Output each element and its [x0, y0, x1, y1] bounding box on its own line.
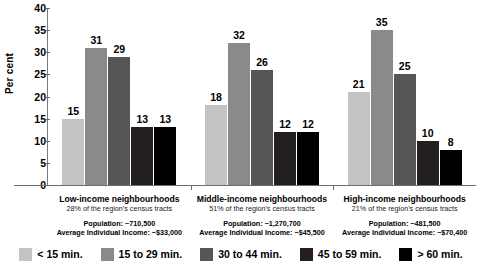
y-axis-tick-label: 30 [20, 47, 46, 58]
bar [371, 30, 393, 185]
bar-value-label: 29 [99, 44, 139, 55]
group-caption: Low-income neighbourhoods28% of the regi… [48, 194, 191, 238]
legend-label: 30 to 44 min. [218, 248, 282, 260]
bar [131, 127, 153, 185]
group-divider-tick [191, 186, 192, 190]
legend-item[interactable]: 15 to 29 min. [101, 248, 183, 261]
legend-item[interactable]: 45 to 59 min. [300, 248, 382, 261]
group-subtitle: 21% of the region's census tracts [333, 205, 476, 213]
y-axis-tick-label: 35 [20, 25, 46, 36]
y-axis-tick-mark [46, 52, 50, 53]
legend-label: 15 to 29 min. [119, 248, 183, 260]
y-axis-tick-label: 25 [20, 69, 46, 80]
legend-label: 45 to 59 min. [318, 248, 382, 260]
bar-value-label: 35 [362, 17, 402, 28]
bar [417, 141, 439, 185]
bar [85, 48, 107, 185]
group-population: Population: ~710,500 [48, 220, 191, 228]
bar [297, 132, 319, 185]
legend-item[interactable]: > 60 min. [399, 248, 462, 261]
bar-value-label: 12 [288, 119, 328, 130]
bar [154, 127, 176, 185]
bar-value-label: 13 [145, 114, 185, 125]
bar [205, 105, 227, 185]
legend-color-swatch [300, 248, 313, 261]
y-axis-tick-label: 15 [20, 114, 46, 125]
y-axis-tick-mark [46, 74, 50, 75]
y-axis-tick-label: 10 [20, 136, 46, 147]
chart-legend: < 15 min.15 to 29 min.30 to 44 min.45 to… [0, 243, 482, 265]
group-title: Middle-income neighbourhoods [191, 194, 334, 204]
bar-value-label: 8 [431, 137, 471, 148]
group-title: High-income neighbourhoods [333, 194, 476, 204]
plot-area: 15312913131832261212213525108 [48, 8, 476, 185]
bar-group: 1832261212 [191, 8, 334, 185]
bar [440, 150, 462, 185]
bar-value-label: 25 [385, 61, 425, 72]
y-axis-tick-mark [46, 119, 50, 120]
y-axis-tick-label: 5 [20, 158, 46, 169]
group-subtitle: 28% of the region's census tracts [48, 205, 191, 213]
group-population: Population: ~1,270,700 [191, 220, 334, 228]
legend-color-swatch [200, 248, 213, 261]
bar-group: 1531291313 [48, 8, 191, 185]
bar-value-label: 26 [242, 57, 282, 68]
y-axis-tick-mark [46, 97, 50, 98]
legend-color-swatch [101, 248, 114, 261]
bar [348, 92, 370, 185]
bar-group: 213525108 [333, 8, 476, 185]
legend-color-swatch [399, 248, 412, 261]
group-caption: Middle-income neighbourhoods51% of the r… [191, 194, 334, 238]
y-axis-title: Per cent [4, 39, 15, 109]
group-title: Low-income neighbourhoods [48, 194, 191, 204]
bar [62, 119, 84, 185]
y-axis-tick-mark [46, 30, 50, 31]
y-axis-tick-label: 20 [20, 92, 46, 103]
legend-color-swatch [19, 248, 32, 261]
commute-time-by-neighbourhood-income-bar-chart: Per cent 4035302520151050 15312913131832… [0, 0, 482, 268]
group-population: Population: ~481,500 [333, 220, 476, 228]
legend-item[interactable]: 30 to 44 min. [200, 248, 282, 261]
y-axis-tick-mark [46, 8, 50, 9]
group-subtitle: 51% of the region's census tracts [191, 205, 334, 213]
y-axis-tick-mark [46, 141, 50, 142]
group-average-income: Average Individual Income: ~$45,500 [191, 229, 334, 237]
y-axis-tick-mark [46, 185, 50, 186]
group-average-income: Average Individual Income: ~$70,400 [333, 229, 476, 237]
bar [274, 132, 296, 185]
group-divider-tick [333, 186, 334, 190]
legend-label: > 60 min. [417, 248, 462, 260]
group-caption: High-income neighbourhoods21% of the reg… [333, 194, 476, 238]
legend-label: < 15 min. [37, 248, 82, 260]
bar-value-label: 32 [219, 30, 259, 41]
y-axis-tick-label: 40 [20, 3, 46, 14]
y-axis-tick-labels: 4035302520151050 [16, 0, 46, 184]
legend-item[interactable]: < 15 min. [19, 248, 82, 261]
group-average-income: Average Individual Income: ~$33,000 [48, 229, 191, 237]
y-axis-tick-mark [46, 163, 50, 164]
x-axis-baseline [14, 185, 476, 186]
